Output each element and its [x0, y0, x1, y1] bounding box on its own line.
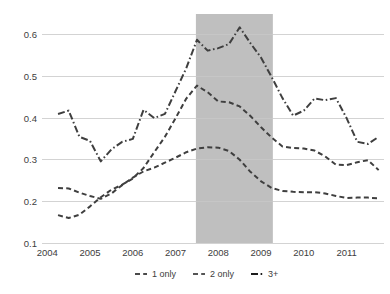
- chart-canvas: 0.10.20.30.40.50.6 200420052006200720082…: [0, 0, 390, 294]
- y-tick-label: 0.1: [24, 238, 37, 249]
- x-tick-label: 2011: [336, 247, 356, 258]
- x-tick-label: 2004: [37, 247, 58, 258]
- y-tick-label: 0.6: [24, 29, 37, 40]
- y-tick-label: 0.2: [24, 196, 37, 207]
- x-axis-tick-labels: 20042005200620072008200920102011: [37, 247, 357, 258]
- x-tick-label: 2005: [80, 247, 101, 258]
- y-tick-label: 0.4: [24, 113, 37, 124]
- legend-label-3-: 3+: [268, 269, 278, 279]
- x-tick-label: 2008: [208, 247, 229, 258]
- y-tick-label: 0.3: [24, 154, 37, 165]
- legend-label-2-only: 2 only: [210, 269, 235, 279]
- legend-label-1-only: 1 only: [152, 269, 177, 279]
- x-tick-label: 2010: [293, 247, 314, 258]
- y-tick-label: 0.5: [24, 71, 37, 82]
- y-axis-tick-labels: 0.10.20.30.40.50.6: [24, 29, 37, 248]
- x-tick-label: 2006: [122, 247, 143, 258]
- x-tick-label: 2007: [165, 247, 186, 258]
- x-tick-label: 2009: [251, 247, 272, 258]
- line-chart: 0.10.20.30.40.50.6 200420052006200720082…: [0, 0, 390, 294]
- chart-legend: 1 only2 only3+: [135, 269, 278, 279]
